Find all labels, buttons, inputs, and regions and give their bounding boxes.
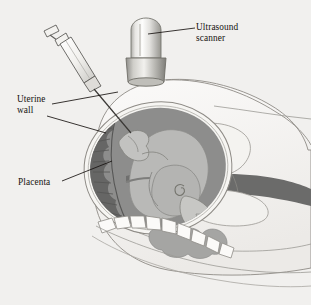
ultrasound-scanner[interactable] bbox=[126, 18, 166, 86]
uterine-wall-label: Uterinewall bbox=[17, 94, 46, 117]
ultrasound-scanner-label-line2: scanner bbox=[196, 33, 225, 43]
scanner-footplate bbox=[128, 78, 164, 86]
placenta-label: Placenta bbox=[18, 177, 50, 188]
uterine-wall-label-line2: wall bbox=[17, 105, 33, 115]
illustration-canvas bbox=[0, 0, 311, 305]
placenta-label-line1: Placenta bbox=[18, 177, 50, 187]
ultrasound-scanner-label: Ultrasoundscanner bbox=[196, 22, 238, 45]
scanner-body[interactable] bbox=[131, 18, 161, 58]
uterine-wall-label-line1: Uterine bbox=[17, 94, 46, 104]
ultrasound-amniocentesis-figure: Ultrasoundscanner Uterinewall Placenta bbox=[0, 0, 311, 305]
ultrasound-scanner-label-line1: Ultrasound bbox=[196, 22, 238, 32]
